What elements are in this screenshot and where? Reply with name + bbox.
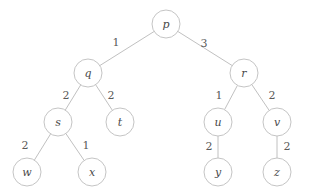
node-label-u: u (214, 116, 221, 129)
tree-node-x: x (78, 158, 106, 186)
tree-node-w: w (13, 158, 41, 186)
tree-edge-s-w (34, 134, 50, 160)
tree-node-u: u (204, 108, 232, 136)
tree-node-y: y (204, 158, 232, 186)
node-label-z: z (273, 166, 280, 179)
node-label-t: t (118, 116, 123, 129)
tree-node-r: r (230, 59, 258, 87)
tree-edge-r-u (225, 85, 238, 109)
nodes-layer: pqrstuvwxyz (13, 10, 291, 186)
tree-edge-s-x (66, 134, 84, 161)
node-label-v: v (274, 116, 281, 129)
node-label-y: y (214, 166, 222, 179)
edge-weight-r-v: 2 (269, 89, 276, 102)
tree-edge-p-q (100, 31, 154, 65)
node-label-q: q (84, 67, 91, 80)
node-label-r: r (241, 67, 247, 80)
tree-diagram-figure: 1322122122 pqrstuvwxyz (0, 0, 309, 195)
tree-diagram-canvas: 1322122122 pqrstuvwxyz (0, 0, 309, 195)
edge-weight-q-t: 2 (108, 89, 115, 102)
edge-weight-q-s: 2 (63, 89, 70, 102)
node-label-s: s (55, 116, 61, 129)
tree-edge-r-v (252, 85, 269, 111)
tree-node-q: q (74, 59, 102, 87)
edge-weight-p-r: 3 (201, 37, 208, 50)
edge-weight-s-w: 2 (22, 139, 29, 152)
node-label-p: p (162, 18, 169, 31)
tree-node-z: z (263, 158, 291, 186)
edge-weight-r-u: 1 (216, 89, 223, 102)
tree-node-p: p (152, 10, 180, 38)
node-label-w: w (22, 166, 32, 179)
tree-node-t: t (106, 108, 134, 136)
edge-weight-p-q: 1 (113, 36, 120, 49)
edge-weight-u-y: 2 (206, 140, 213, 153)
edge-weight-s-x: 1 (83, 139, 90, 152)
tree-node-v: v (263, 108, 291, 136)
node-label-x: x (89, 166, 96, 179)
edges-layer (34, 31, 277, 160)
tree-node-s: s (44, 108, 72, 136)
edge-weight-v-z: 2 (284, 140, 291, 153)
